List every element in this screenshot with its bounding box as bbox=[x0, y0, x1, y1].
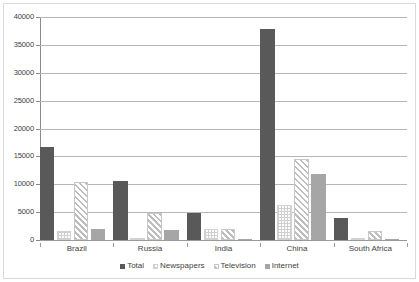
bar-chart: 4000035000300002500020000150001000050000… bbox=[0, 0, 419, 282]
y-tick-mark bbox=[36, 129, 40, 130]
x-tick-mark bbox=[113, 243, 114, 247]
x-axis-labels: BrazilRussiaIndiaChinaSouth Africa bbox=[40, 243, 407, 257]
y-tick-label: 15000 bbox=[0, 152, 34, 160]
bar bbox=[204, 229, 219, 240]
y-tick-mark bbox=[36, 17, 40, 18]
y-axis-labels: 4000035000300002500020000150001000050000 bbox=[0, 0, 34, 282]
legend-label: Total bbox=[127, 261, 144, 271]
plot-area bbox=[40, 17, 407, 240]
x-tick-label: South Africa bbox=[334, 243, 407, 255]
bar bbox=[221, 229, 236, 240]
y-tick-label: 0 bbox=[0, 236, 34, 244]
bar bbox=[147, 213, 162, 240]
y-tick-label: 40000 bbox=[0, 13, 34, 21]
legend-swatch-icon bbox=[120, 264, 125, 269]
bar-group bbox=[334, 17, 400, 240]
bar bbox=[351, 238, 366, 240]
chart-legend: TotalNewspapersTelevisionInternet bbox=[0, 259, 419, 273]
bar bbox=[238, 239, 253, 240]
y-tick-mark bbox=[36, 101, 40, 102]
y-tick-mark bbox=[36, 212, 40, 213]
x-tick-mark bbox=[407, 243, 408, 247]
x-tick-mark bbox=[187, 243, 188, 247]
y-tick-mark bbox=[36, 73, 40, 74]
legend-item: Internet bbox=[265, 261, 299, 271]
legend-swatch-icon bbox=[153, 264, 158, 269]
x-tick-label: India bbox=[187, 243, 260, 255]
x-tick-mark bbox=[40, 243, 41, 247]
bar bbox=[164, 230, 179, 240]
x-tick-mark bbox=[260, 243, 261, 247]
legend-item: Newspapers bbox=[153, 261, 204, 271]
bar bbox=[385, 239, 400, 240]
bar bbox=[334, 218, 349, 240]
bar bbox=[74, 182, 89, 240]
x-tick-label: China bbox=[260, 243, 333, 255]
legend-label: Newspapers bbox=[160, 261, 204, 271]
gridline bbox=[40, 240, 407, 241]
x-tick-label: Brazil bbox=[40, 243, 113, 255]
x-tick-mark bbox=[334, 243, 335, 247]
bar bbox=[368, 231, 383, 240]
bar bbox=[113, 181, 128, 240]
bar bbox=[294, 159, 309, 240]
y-tick-mark bbox=[36, 184, 40, 185]
bar-group bbox=[260, 17, 326, 240]
bars-layer bbox=[40, 17, 407, 240]
bar bbox=[260, 29, 275, 240]
bar bbox=[40, 147, 55, 240]
bar bbox=[130, 238, 145, 240]
y-tick-label: 35000 bbox=[0, 41, 34, 49]
y-tick-mark bbox=[36, 156, 40, 157]
y-tick-mark bbox=[36, 240, 40, 241]
bar bbox=[91, 229, 106, 240]
bar bbox=[57, 231, 72, 240]
x-tick-label: Russia bbox=[113, 243, 186, 255]
y-tick-mark bbox=[36, 45, 40, 46]
y-tick-label: 20000 bbox=[0, 125, 34, 133]
bar bbox=[311, 174, 326, 240]
legend-label: Internet bbox=[272, 261, 299, 271]
bar-group bbox=[40, 17, 106, 240]
legend-item: Total bbox=[120, 261, 144, 271]
legend-item: Television bbox=[214, 261, 256, 271]
legend-swatch-icon bbox=[265, 264, 270, 269]
y-tick-label: 25000 bbox=[0, 97, 34, 105]
bar bbox=[187, 213, 202, 240]
bar bbox=[277, 205, 292, 240]
legend-swatch-icon bbox=[214, 264, 219, 269]
y-tick-label: 10000 bbox=[0, 180, 34, 188]
bar-group bbox=[187, 17, 253, 240]
bar-group bbox=[113, 17, 179, 240]
y-tick-label: 5000 bbox=[0, 208, 34, 216]
y-tick-label: 30000 bbox=[0, 69, 34, 77]
legend-label: Television bbox=[221, 261, 256, 271]
